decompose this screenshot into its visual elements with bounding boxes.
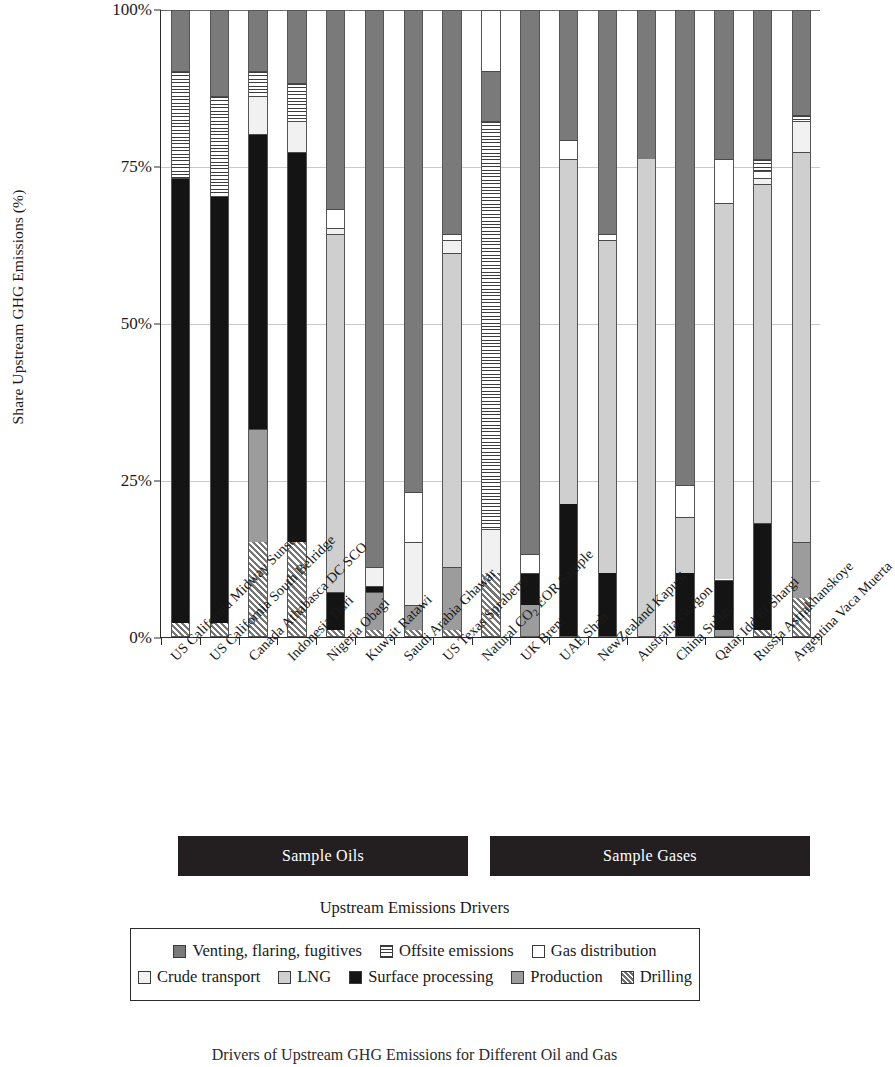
bar-segment-venting_flaring_fugitives: [288, 10, 305, 83]
bar-segment-venting_flaring_fugitives: [599, 10, 616, 234]
bar-16[interactable]: [792, 10, 811, 637]
y-tick-label-0: 0%: [129, 628, 152, 648]
legend-item-surface-processing[interactable]: Surface processing: [349, 967, 493, 987]
bar-segment-crude_transport: [366, 567, 383, 586]
production-swatch-icon: [511, 971, 524, 984]
bar-segment-gas_distribution: [715, 159, 732, 203]
bar-segment-offsite_emissions: [754, 159, 771, 172]
bar-segment-crude_transport: [249, 96, 266, 134]
bar-segment-lng: [599, 240, 616, 573]
bar-5[interactable]: [365, 10, 384, 637]
bar-segment-venting_flaring_fugitives: [172, 10, 189, 71]
bar-segment-venting_flaring_fugitives: [715, 10, 732, 159]
group-band-label: Sample Oils: [282, 847, 364, 865]
legend-item-label: Surface processing: [368, 967, 493, 987]
legend-item-venting-flaring-fugitives[interactable]: Venting, flaring, fugitives: [173, 941, 362, 961]
legend-title: Upstream Emissions Drivers: [0, 898, 829, 918]
bar-6[interactable]: [404, 10, 423, 637]
bar-segment-crude_transport: [443, 240, 460, 253]
group-band-label: Sample Gases: [603, 847, 697, 865]
bar-segment-surface_processing: [172, 178, 189, 624]
y-tick-label-50: 50%: [121, 314, 152, 334]
bar-segment-gas_distribution: [443, 234, 460, 240]
legend-item-label: Venting, flaring, fugitives: [192, 941, 362, 961]
bar-segment-lng: [443, 253, 460, 567]
legend-item-label: Gas distribution: [551, 941, 657, 961]
bar-segment-venting_flaring_fugitives: [560, 10, 577, 140]
bar-segment-surface_processing: [366, 586, 383, 592]
bar-1[interactable]: [210, 10, 229, 637]
group-band-sample-gases: Sample Gases: [490, 836, 810, 876]
lng-swatch-icon: [278, 971, 291, 984]
figure-caption: Drivers of Upstream GHG Emissions for Di…: [0, 1046, 829, 1064]
legend-item-gas-distribution[interactable]: Gas distribution: [532, 941, 657, 961]
bar-segment-venting_flaring_fugitives: [443, 10, 460, 234]
bar-14[interactable]: [714, 10, 733, 637]
legend-row-2: Crude transport LNG Surface processing P…: [141, 964, 689, 990]
bar-8[interactable]: [481, 10, 500, 637]
legend-item-label: Crude transport: [157, 967, 260, 987]
bar-segment-venting_flaring_fugitives: [405, 10, 422, 492]
bar-segment-venting_flaring_fugitives: [676, 10, 693, 485]
bar-segment-crude_transport: [793, 121, 810, 152]
legend-row-1: Venting, flaring, fugitives Offsite emis…: [141, 938, 689, 964]
y-tick-mark-100: [154, 10, 161, 11]
legend-item-label: Offsite emissions: [399, 941, 514, 961]
legend-item-offsite-emissions[interactable]: Offsite emissions: [380, 941, 514, 961]
bar-segment-surface_processing: [249, 134, 266, 429]
bar-segment-gas_distribution: [405, 492, 422, 542]
y-axis-title: Share Upstream GHG Emissions (%): [9, 57, 27, 557]
sample-group-bands: Sample Oils Sample Gases: [0, 836, 829, 878]
y-tick-mark-50: [154, 324, 161, 325]
bar-15[interactable]: [753, 10, 772, 637]
bar-0[interactable]: [171, 10, 190, 637]
surface-processing-swatch-icon: [349, 971, 362, 984]
bar-segment-crude_transport: [754, 178, 771, 184]
y-tick-mark-75: [154, 167, 161, 168]
bar-10[interactable]: [559, 10, 578, 637]
legend-item-crude-transport[interactable]: Crude transport: [138, 967, 260, 987]
bar-segment-lng: [638, 159, 655, 636]
legend-box: Venting, flaring, fugitives Offsite emis…: [130, 928, 700, 1001]
bar-segment-venting_flaring_fugitives: [211, 10, 228, 96]
bar-segment-lng: [754, 184, 771, 523]
bar-segment-gas_distribution: [754, 171, 771, 177]
bar-segment-lng: [793, 152, 810, 541]
drilling-swatch-icon: [621, 971, 634, 984]
bar-segment-offsite_emissions: [793, 115, 810, 121]
bar-segment-production: [249, 429, 266, 542]
bar-13[interactable]: [675, 10, 694, 637]
bar-9[interactable]: [520, 10, 539, 637]
bar-segment-offsite_emissions: [249, 71, 266, 96]
legend-item-label: LNG: [297, 967, 331, 987]
legend-item-drilling[interactable]: Drilling: [621, 967, 692, 987]
bar-segment-venting_flaring_fugitives: [754, 10, 771, 159]
bar-segment-venting_flaring_fugitives: [366, 10, 383, 567]
bar-segment-surface_processing: [211, 196, 228, 623]
legend-item-label: Drilling: [640, 967, 692, 987]
legend-item-label: Production: [530, 967, 602, 987]
offsite-swatch-icon: [380, 945, 393, 958]
bar-segment-crude_transport: [327, 228, 344, 234]
bar-segment-venting_flaring_fugitives: [521, 10, 538, 554]
legend-item-production[interactable]: Production: [511, 967, 602, 987]
bar-segment-venting_flaring_fugitives: [638, 10, 655, 159]
x-tick-0: [161, 637, 162, 645]
bar-segment-gas_distribution: [327, 209, 344, 228]
bar-segment-lng: [715, 203, 732, 580]
legend-item-lng[interactable]: LNG: [278, 967, 331, 987]
bar-segment-surface_processing: [288, 152, 305, 541]
bar-11[interactable]: [598, 10, 617, 637]
bar-12[interactable]: [637, 10, 656, 637]
gas-distribution-swatch-icon: [532, 945, 545, 958]
group-band-sample-oils: Sample Oils: [178, 836, 468, 876]
y-tick-label-75: 75%: [121, 157, 152, 177]
bar-segment-lng: [676, 517, 693, 574]
y-tick-label-25: 25%: [121, 471, 152, 491]
venting-swatch-icon: [173, 945, 186, 958]
bar-2[interactable]: [248, 10, 267, 637]
y-tick-mark-0: [154, 638, 161, 639]
bar-segment-offsite_emissions: [288, 83, 305, 121]
bar-7[interactable]: [442, 10, 461, 637]
bar-segment-gas_distribution: [521, 554, 538, 573]
